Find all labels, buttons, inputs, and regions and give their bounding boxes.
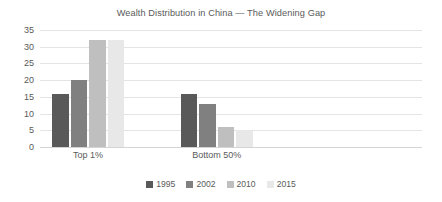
bar-chart: Wealth Distribution in China — The Widen… — [0, 0, 442, 202]
legend-label: 2015 — [277, 179, 296, 189]
legend-label: 1995 — [156, 179, 175, 189]
legend-swatch-icon — [267, 181, 274, 188]
y-axis-tick-label: 10 — [0, 109, 34, 119]
y-axis-tick-label: 35 — [0, 25, 34, 35]
x-axis-category-label: Top 1% — [73, 150, 103, 160]
axis-baseline — [40, 147, 422, 148]
y-axis-tick-label: 0 — [0, 142, 34, 152]
legend-swatch-icon — [146, 181, 153, 188]
bar — [52, 94, 69, 147]
bar — [71, 80, 88, 147]
legend-item[interactable]: 2002 — [186, 179, 215, 189]
bar — [236, 130, 253, 147]
legend-swatch-icon — [186, 181, 193, 188]
chart-legend: 1995200220102015 — [0, 179, 442, 189]
bar — [181, 94, 198, 147]
bar — [108, 40, 125, 147]
legend-label: 2002 — [196, 179, 215, 189]
bar — [218, 127, 235, 147]
legend-item[interactable]: 1995 — [146, 179, 175, 189]
bar — [199, 104, 216, 147]
y-axis-tick-label: 20 — [0, 75, 34, 85]
bars-layer — [40, 30, 422, 147]
chart-title: Wealth Distribution in China — The Widen… — [0, 8, 442, 18]
x-axis-category-label: Bottom 50% — [192, 150, 241, 160]
y-axis-tick-label: 30 — [0, 42, 34, 52]
y-axis: 05101520253035 — [0, 30, 34, 147]
x-axis: Top 1%Bottom 50% — [40, 150, 422, 166]
y-axis-tick-label: 15 — [0, 92, 34, 102]
legend-item[interactable]: 2010 — [227, 179, 256, 189]
legend-label: 2010 — [237, 179, 256, 189]
y-axis-tick-label: 5 — [0, 125, 34, 135]
y-axis-tick-label: 25 — [0, 58, 34, 68]
legend-swatch-icon — [227, 181, 234, 188]
legend-item[interactable]: 2015 — [267, 179, 296, 189]
bar — [89, 40, 106, 147]
